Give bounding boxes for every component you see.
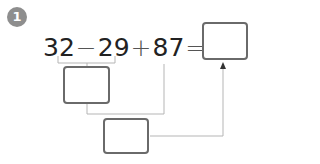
intermediate-box-1[interactable] bbox=[63, 66, 110, 104]
final-answer-box[interactable] bbox=[202, 22, 248, 60]
intermediate-box-2[interactable] bbox=[103, 118, 149, 154]
